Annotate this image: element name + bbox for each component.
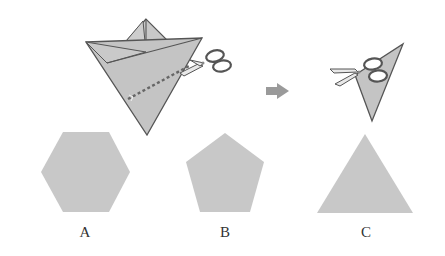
option-b-label[interactable]: B (220, 224, 230, 241)
option-c-label[interactable]: C (361, 224, 371, 241)
option-a-hexagon[interactable] (41, 132, 130, 212)
arrow-right-icon (266, 83, 289, 99)
diagram-canvas (0, 0, 445, 256)
folded-paper (86, 19, 202, 135)
option-c-triangle[interactable] (317, 134, 413, 213)
option-b-pentagon[interactable] (186, 133, 264, 212)
option-a-label[interactable]: A (80, 224, 91, 241)
